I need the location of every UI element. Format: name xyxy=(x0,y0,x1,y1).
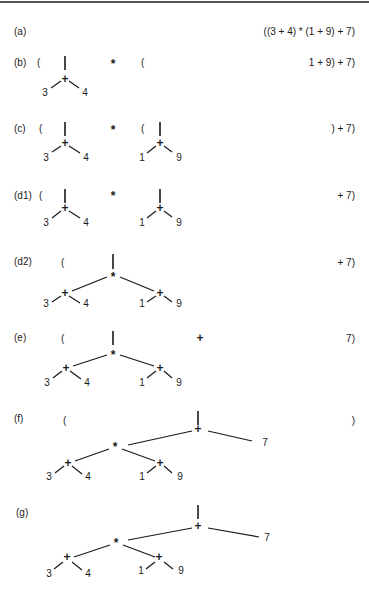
edge xyxy=(52,146,61,152)
step-label: (e) xyxy=(14,332,26,343)
edge xyxy=(73,355,107,366)
times-node: * xyxy=(111,270,116,284)
step-d1: (d1) ( + 3 4 * + 1 9 + 7) xyxy=(14,189,355,228)
edge xyxy=(164,296,172,302)
leaf-9: 9 xyxy=(176,217,182,228)
step-f: (f) ( + 7 * + 3 4 + 1 9 ) xyxy=(14,411,355,482)
edge xyxy=(147,146,156,153)
top-rule xyxy=(0,1,369,3)
edge xyxy=(123,545,155,557)
leaf-9: 9 xyxy=(176,298,182,309)
leaf-9: 9 xyxy=(177,471,183,482)
open-paren: ( xyxy=(141,57,145,68)
plus-node: + xyxy=(156,456,163,470)
step-d2: (d2) ( * + 3 4 + 1 9 + 7) xyxy=(14,254,355,309)
times-node: * xyxy=(111,348,116,362)
step-a: (a) ((3 + 4) * (1 + 9) + 7) xyxy=(14,26,355,37)
edge xyxy=(164,146,172,152)
plus-node: + xyxy=(156,136,163,150)
plus-node: + xyxy=(63,550,70,564)
leaf-1: 1 xyxy=(138,565,144,576)
leaf-7: 7 xyxy=(264,532,270,543)
leaf-4: 4 xyxy=(83,298,89,309)
plus-node: + xyxy=(156,361,163,375)
expression-tree-figure: (a) ((3 + 4) * (1 + 9) + 7) (b) ( + 3 4 … xyxy=(0,0,369,608)
edge xyxy=(72,466,82,474)
plus-node: + xyxy=(156,201,163,215)
remaining-input: 1 + 9) + 7) xyxy=(309,57,355,68)
step-label: (c) xyxy=(14,123,26,134)
step-b: (b) ( + 3 4 * ( 1 + 9) + 7) xyxy=(14,56,355,98)
step-label: (d1) xyxy=(14,190,32,201)
leaf-4: 4 xyxy=(82,87,88,98)
edge xyxy=(72,277,107,291)
leaf-3: 3 xyxy=(43,152,49,163)
leaf-9: 9 xyxy=(176,152,182,163)
leaf-1: 1 xyxy=(139,471,145,482)
step-label: (g) xyxy=(16,507,28,518)
leaf-4: 4 xyxy=(85,568,91,579)
remaining-input: + 7) xyxy=(337,257,355,268)
edge xyxy=(52,211,61,218)
open-paren: ( xyxy=(63,415,67,426)
remaining-input: 7) xyxy=(346,333,355,344)
edge xyxy=(147,466,156,473)
leaf-1: 1 xyxy=(139,298,145,309)
edge xyxy=(52,296,61,302)
leaf-3: 3 xyxy=(44,377,50,388)
edge xyxy=(147,296,156,302)
edge xyxy=(53,371,62,378)
edge xyxy=(69,81,79,88)
plus-node: + xyxy=(156,286,163,300)
leaf-1: 1 xyxy=(139,152,145,163)
leaf-4: 4 xyxy=(83,152,89,163)
leaf-7: 7 xyxy=(262,437,268,448)
remaining-input: ) + 7) xyxy=(331,123,355,134)
plus-node: + xyxy=(61,201,68,215)
edge xyxy=(120,277,154,291)
step-label: (b) xyxy=(14,57,26,68)
edge xyxy=(120,355,154,366)
edge xyxy=(69,211,80,218)
times-operator: * xyxy=(111,123,116,137)
step-label: (d2) xyxy=(14,256,32,267)
plus-root-node: + xyxy=(194,519,201,533)
edge xyxy=(146,562,155,569)
leaf-1: 1 xyxy=(139,377,145,388)
plus-node: + xyxy=(61,136,68,150)
leaf-9: 9 xyxy=(176,377,182,388)
step-label: (a) xyxy=(14,26,26,37)
edge xyxy=(72,562,82,570)
leaf-3: 3 xyxy=(43,217,49,228)
edge xyxy=(164,562,173,569)
leaf-3: 3 xyxy=(46,568,52,579)
open-paren: ( xyxy=(61,257,65,268)
edge xyxy=(55,466,64,473)
times-operator: * xyxy=(111,189,116,203)
step-e: (e) ( * + 3 4 + 1 9 + 7) xyxy=(14,331,355,388)
edge xyxy=(69,296,80,303)
plus-node: + xyxy=(64,456,71,470)
times-operator: * xyxy=(111,57,116,71)
open-paren: ( xyxy=(61,333,65,344)
leaf-4: 4 xyxy=(85,471,91,482)
leaf-1: 1 xyxy=(139,217,145,228)
leaf-4: 4 xyxy=(84,377,90,388)
times-node: * xyxy=(113,440,118,454)
open-paren: ( xyxy=(39,123,43,134)
edge xyxy=(164,371,172,378)
open-paren: ( xyxy=(37,57,41,68)
times-node: * xyxy=(114,536,119,550)
plus-root-node: + xyxy=(194,422,201,436)
open-paren: ( xyxy=(141,123,145,134)
edge xyxy=(54,562,63,569)
edge xyxy=(122,449,155,461)
plus-node: + xyxy=(61,72,68,86)
edge xyxy=(128,431,192,445)
edge xyxy=(208,528,259,537)
edge xyxy=(164,466,172,473)
remaining-input: ((3 + 4) * (1 + 9) + 7) xyxy=(264,26,355,37)
close-paren: ) xyxy=(352,415,355,426)
edge xyxy=(75,449,109,461)
edge xyxy=(70,371,81,379)
